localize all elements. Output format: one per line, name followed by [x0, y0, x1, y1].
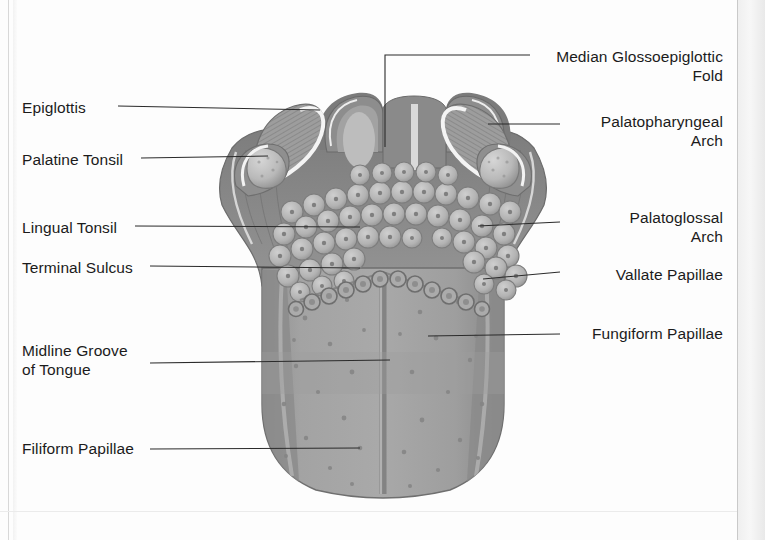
- median-fold-septum: [411, 104, 418, 170]
- label-filiform-papillae: Filiform Papillae: [22, 439, 134, 458]
- label-terminal-sulcus: Terminal Sulcus: [22, 258, 133, 277]
- epiglottis-left-core: [343, 112, 375, 168]
- label-midline-groove-of-tongue: Midline Groove of Tongue: [22, 341, 128, 379]
- label-epiglottis: Epiglottis: [22, 98, 86, 117]
- label-palatopharyngeal-arch: Palatopharyngeal Arch: [601, 112, 723, 150]
- label-fungiform-papillae: Fungiform Papillae: [592, 324, 723, 343]
- label-lingual-tonsil: Lingual Tonsil: [22, 218, 117, 237]
- label-palatoglossal-arch: Palatoglossal Arch: [630, 208, 724, 246]
- label-median-glossoepiglottic-fold: Median Glossoepiglottic Fold: [556, 47, 723, 85]
- label-vallate-papillae: Vallate Papillae: [616, 265, 723, 284]
- tongue-body-tone-band: [262, 352, 504, 394]
- scanned-page: Epiglottis Palatine Tonsil Lingual Tonsi…: [0, 0, 765, 540]
- label-palatine-tonsil: Palatine Tonsil: [22, 150, 123, 169]
